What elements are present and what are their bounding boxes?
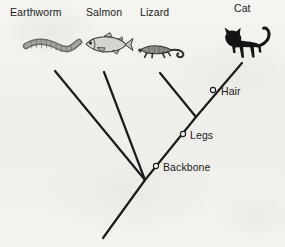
taxon-label-earthworm: Earthworm bbox=[10, 6, 62, 18]
node-label-hair: Hair bbox=[221, 85, 241, 97]
node-marker-legs bbox=[180, 131, 185, 136]
branch-earthworm bbox=[55, 71, 145, 180]
lizard-illustration bbox=[139, 46, 184, 58]
node-marker-backbone bbox=[153, 163, 158, 168]
node-label-backbone: Backbone bbox=[163, 161, 211, 173]
node-marker-hair bbox=[210, 87, 215, 92]
cat-illustration bbox=[225, 27, 269, 57]
salmon-illustration bbox=[86, 33, 133, 55]
taxon-label-cat: Cat bbox=[234, 2, 251, 14]
taxon-label-salmon: Salmon bbox=[86, 6, 122, 18]
branch-root-stem bbox=[103, 180, 145, 238]
branch-salmon bbox=[104, 72, 145, 180]
cladogram-figure: Earthworm Salmon Lizard Cat Backbone Leg… bbox=[0, 0, 285, 247]
earthworm-illustration bbox=[26, 41, 79, 53]
branch-lizard bbox=[160, 73, 196, 117]
node-label-legs: Legs bbox=[190, 129, 213, 141]
tree-branches bbox=[0, 0, 285, 247]
taxon-label-lizard: Lizard bbox=[140, 6, 169, 18]
